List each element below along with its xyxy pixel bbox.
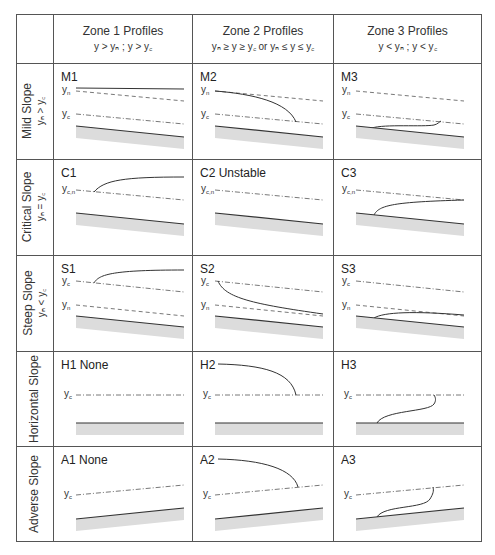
- h2-profile-diagram: yc: [193, 352, 333, 446]
- profile-cell-a2: A2 yc: [193, 447, 333, 541]
- row-label-adverse: Adverse Slope: [16, 446, 53, 541]
- profile-cell-s1: S1 yc yn: [54, 256, 192, 351]
- row-label-steep: Steep Slopeyₙ < y꜀: [16, 255, 53, 351]
- row-label-critical: Critical Slopeyₙ = y꜀: [16, 159, 53, 255]
- c3-profile-diagram: yc,n: [334, 160, 481, 255]
- s2-profile-diagram: yc yn: [193, 256, 333, 351]
- row-label-text: Adverse Slope: [28, 454, 42, 532]
- profile-cell-m1: M1 yn yc: [54, 64, 192, 159]
- grid-line: [16, 541, 482, 542]
- a3-profile-diagram: yc: [334, 447, 481, 541]
- row-condition: yₙ = y꜀: [35, 172, 49, 243]
- c2-profile-diagram: yc,n: [193, 160, 333, 255]
- profile-cell-s2: S2 yc yn: [193, 256, 333, 351]
- c1-profile-diagram: yc,n: [54, 160, 192, 255]
- row-label-text: Steep Slope: [21, 270, 35, 335]
- row-label-horizontal: Horizontal Slope: [16, 351, 53, 446]
- a2-profile-diagram: yc: [193, 447, 333, 541]
- svg-text:yc,n: yc,n: [201, 183, 214, 195]
- svg-text:yc,n: yc,n: [342, 183, 355, 195]
- zone-1-header: Zone 1 Profiles y > yₙ ; y > y꜀: [54, 14, 192, 63]
- svg-text:yc: yc: [342, 275, 350, 287]
- a1-profile-diagram: yc: [54, 447, 192, 541]
- svg-text:yc: yc: [344, 488, 352, 500]
- svg-text:yn: yn: [201, 84, 209, 96]
- h1-profile-diagram: yc: [54, 352, 192, 446]
- zone-2-header: Zone 2 Profiles yₙ ≥ y ≥ y꜀ or yₙ ≤ y ≤ …: [193, 14, 333, 63]
- row-condition: yₙ > y꜀: [35, 83, 49, 139]
- profile-cell-s3: S3 yc yn: [334, 256, 481, 351]
- zone-title: Zone 3 Profiles: [367, 24, 448, 39]
- row-label-text: Critical Slope: [21, 172, 35, 243]
- s3-profile-diagram: yc yn: [334, 256, 481, 351]
- row-label-text: Horizontal Slope: [28, 354, 42, 442]
- svg-text:yc: yc: [203, 488, 211, 500]
- profile-cell-c1: C1 yc,n: [54, 160, 192, 255]
- svg-text:yc: yc: [62, 275, 70, 287]
- s1-profile-diagram: yc yn: [54, 256, 192, 351]
- profile-cell-a1: A1 None yc: [54, 447, 192, 541]
- svg-text:yc: yc: [64, 388, 72, 400]
- svg-text:yn: yn: [342, 299, 350, 311]
- grid-line: [481, 14, 482, 542]
- zone-3-header: Zone 3 Profiles y < yₙ ; y < y꜀: [334, 14, 481, 63]
- profile-cell-c2: C2 Unstable yc,n: [193, 160, 333, 255]
- yc-label: yc: [62, 108, 70, 120]
- zone-condition: yₙ ≥ y ≥ y꜀ or yₙ ≤ y ≤ y꜀: [212, 39, 315, 54]
- svg-text:yc: yc: [201, 275, 209, 287]
- profile-cell-m2: M2 yn yc: [193, 64, 333, 159]
- row-condition: yₙ < y꜀: [35, 270, 49, 335]
- zone-title: Zone 1 Profiles: [83, 24, 164, 39]
- h3-profile-diagram: yc: [334, 352, 481, 446]
- m2-profile-diagram: yn yc: [193, 64, 333, 159]
- m3-profile-diagram: yn yc: [334, 64, 481, 159]
- svg-text:yc: yc: [64, 488, 72, 500]
- zone-title: Zone 2 Profiles: [223, 24, 304, 39]
- svg-text:yc,n: yc,n: [62, 183, 75, 195]
- yn-label: yn: [62, 84, 70, 96]
- svg-text:yc: yc: [342, 108, 350, 120]
- zone-condition: y > yₙ ; y > y꜀: [94, 39, 152, 54]
- profile-cell-h3: H3 yc: [334, 352, 481, 446]
- zone-condition: y < yₙ ; y < y꜀: [378, 39, 436, 54]
- svg-text:yn: yn: [342, 84, 350, 96]
- row-label-text: Mild Slope: [21, 83, 35, 139]
- m1-profile-diagram: yn yc: [54, 64, 192, 159]
- svg-text:yc: yc: [344, 388, 352, 400]
- svg-text:yn: yn: [62, 299, 70, 311]
- profile-cell-h2: H2 yc: [193, 352, 333, 446]
- svg-text:yc: yc: [201, 108, 209, 120]
- profile-cell-m3: M3 yn yc: [334, 64, 481, 159]
- row-label-mild: Mild Slopeyₙ > y꜀: [16, 63, 53, 159]
- water-surface-profiles-table: Zone 1 Profiles y > yₙ ; y > y꜀ Zone 2 P…: [16, 14, 482, 542]
- svg-text:yn: yn: [201, 299, 209, 311]
- profile-cell-a3: A3 yc: [334, 447, 481, 541]
- profile-cell-h1: H1 None yc: [54, 352, 192, 446]
- profile-cell-c3: C3 yc,n: [334, 160, 481, 255]
- svg-text:yc: yc: [203, 388, 211, 400]
